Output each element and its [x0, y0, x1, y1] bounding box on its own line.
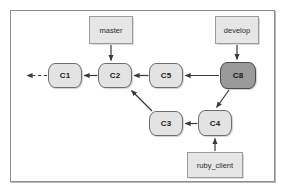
commit-node-c1[interactable]: C1: [48, 63, 82, 88]
commit-node-c8[interactable]: C8: [220, 62, 256, 89]
commit-node-c2[interactable]: C2: [98, 63, 132, 88]
branch-label-develop[interactable]: develop: [215, 16, 259, 44]
diagram-canvas: C1 C2 C5 C8 C3 C4 master develop ruby_cl…: [0, 0, 286, 193]
commit-node-c2-label: C2: [110, 71, 121, 80]
commit-node-c8-label: C8: [233, 71, 244, 80]
commit-node-c4[interactable]: C4: [198, 110, 232, 136]
branch-label-develop-text: develop: [224, 26, 250, 35]
branch-label-master-text: master: [100, 26, 123, 35]
branch-label-master[interactable]: master: [89, 16, 133, 44]
commit-node-c1-label: C1: [60, 71, 71, 80]
commit-node-c3-label: C3: [161, 119, 172, 128]
commit-node-c5-label: C5: [161, 71, 172, 80]
commit-node-c5[interactable]: C5: [149, 63, 183, 88]
commit-node-c3[interactable]: C3: [149, 111, 183, 136]
branch-label-ruby-client[interactable]: ruby_client: [187, 152, 243, 178]
commit-node-c4-label: C4: [210, 119, 221, 128]
branch-label-ruby-client-text: ruby_client: [197, 161, 233, 170]
